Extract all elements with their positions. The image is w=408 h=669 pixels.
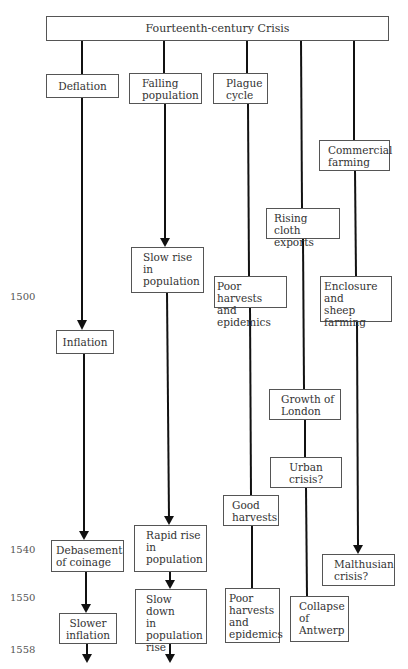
node-good-harvests: Good harvests [223, 495, 279, 526]
node-commercial-farming: Commercial farming [319, 140, 390, 171]
title-box: Fourteenth-century Crisis [46, 16, 389, 41]
year-label-1540: 1540 [10, 544, 35, 555]
node-slow-rise-population: Slow rise in population [131, 247, 204, 293]
year-label-1500: 1500 [10, 291, 35, 302]
node-rapid-rise-population: Rapid rise in population [134, 525, 207, 572]
node-inflation: Inflation [56, 330, 114, 354]
node-slower-inflation: Slower inflation [59, 613, 117, 644]
node-growth-of-london: Growth of London [269, 389, 341, 420]
node-slow-down-population-rise: Slow down in population rise [135, 589, 207, 644]
node-poor-harvests-epidemics-1: Poor harvests and epidemics [214, 276, 287, 308]
year-label-1550: 1550 [10, 592, 35, 603]
node-enclosure-sheep-farming: Enclosure and sheep farming [320, 276, 392, 322]
node-rising-cloth-exports: Rising cloth exports [266, 208, 340, 239]
year-label-1558: 1558 [10, 644, 35, 655]
node-malthusian-crisis: Malthusian crisis? [322, 554, 395, 586]
node-poor-harvests-epidemics-2: Poor harvests and epidemics [225, 588, 280, 643]
node-plague-cycle: Plague cycle [213, 73, 268, 104]
node-deflation: Deflation [46, 74, 119, 98]
node-urban-crisis: Urban crisis? [270, 457, 342, 488]
diagram-title: Fourteenth-century Crisis [146, 23, 290, 35]
node-falling-population: Falling population [129, 73, 202, 104]
node-collapse-of-antwerp: Collapse of Antwerp [290, 596, 349, 642]
node-debasement-of-coinage: Debasement of coinage [51, 540, 124, 572]
